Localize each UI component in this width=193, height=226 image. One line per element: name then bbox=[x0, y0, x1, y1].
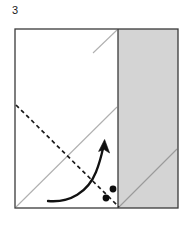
origami-step-diagram: 3 bbox=[0, 0, 193, 226]
origami-figure bbox=[0, 0, 193, 226]
right-shaded-panel bbox=[118, 29, 178, 208]
reference-dot-upper bbox=[110, 186, 117, 193]
left-white-panel bbox=[15, 29, 118, 208]
reference-dot-lower bbox=[103, 195, 110, 202]
